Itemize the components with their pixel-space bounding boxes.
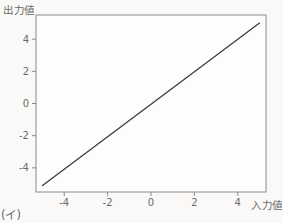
x-tick-label: 2	[191, 197, 197, 208]
line-chart-figure: -4-2024-4-2024 出力値 入力値 (イ)	[0, 0, 283, 223]
x-tick-label: -4	[59, 197, 69, 208]
y-tick-label: 4	[23, 34, 29, 45]
x-tick-label: 0	[148, 197, 154, 208]
y-tick-label: 0	[23, 98, 29, 109]
y-tick-label: 2	[23, 66, 29, 77]
x-tick-label: 4	[235, 197, 241, 208]
figure-caption: (イ)	[1, 206, 21, 222]
plot-area: -4-2024-4-2024	[0, 0, 283, 223]
y-axis-title: 出力値	[3, 2, 35, 17]
x-tick-label: -2	[103, 197, 113, 208]
y-tick-label: -4	[19, 162, 29, 173]
x-axis-title: 入力値	[251, 197, 283, 212]
y-tick-label: -2	[19, 130, 29, 141]
